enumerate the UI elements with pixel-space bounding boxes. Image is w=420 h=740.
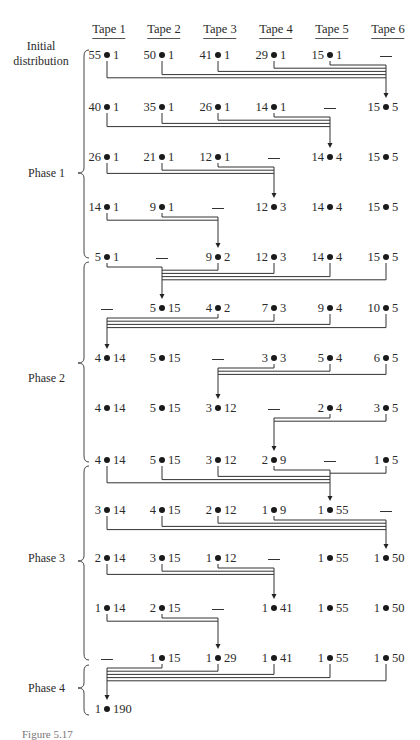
phase-label-3: Phase 3 (28, 551, 65, 566)
run-count: 15 (368, 250, 381, 264)
run-count: 2 (318, 401, 324, 415)
run-length: 4 (336, 401, 342, 415)
arrow-down-icon (216, 644, 221, 649)
run-count: 2 (150, 601, 156, 615)
bullet-icon (383, 655, 389, 661)
run-length: 1 (224, 150, 230, 164)
bullet-icon (159, 52, 165, 58)
run-length: 5 (392, 301, 398, 315)
bullet-icon (271, 204, 277, 210)
run-length: 4 (336, 250, 342, 264)
run-length: 4 (336, 150, 342, 164)
bullet-icon (104, 154, 110, 160)
bullet-icon (159, 355, 165, 361)
run-count: 41 (200, 48, 213, 62)
bullet-icon (327, 655, 333, 661)
run-length: 4 (336, 301, 342, 315)
bullet-icon (104, 254, 110, 260)
bullet-icon (104, 405, 110, 411)
run-length: 15 (168, 351, 181, 365)
bullet-icon (215, 254, 221, 260)
brace-phase-4 (78, 665, 89, 715)
bullet-icon (383, 355, 389, 361)
empty-tape-dash (212, 359, 224, 360)
run-length: 3 (280, 250, 286, 264)
empty-tape-dash (101, 309, 113, 310)
tape-header-4: Tape 4 (259, 22, 292, 39)
bullet-icon (215, 305, 221, 311)
run-count: 3 (150, 551, 156, 565)
bullet-icon (159, 655, 165, 661)
bullet-icon (215, 52, 221, 58)
run-count: 21 (144, 150, 157, 164)
bullet-icon (159, 154, 165, 160)
run-count: 5 (150, 453, 156, 467)
run-length: 5 (392, 150, 398, 164)
run-count: 3 (95, 503, 101, 517)
bullet-icon (159, 457, 165, 463)
bullet-icon (383, 154, 389, 160)
run-length: 2 (224, 250, 230, 264)
bullet-icon (327, 405, 333, 411)
run-count: 29 (256, 48, 269, 62)
arrow-down-icon (384, 544, 389, 549)
bullet-icon (271, 305, 277, 311)
run-count: 2 (262, 453, 268, 467)
run-length: 1 (168, 100, 174, 114)
arrow-down-icon (160, 294, 165, 299)
run-count: 1 (206, 651, 212, 665)
bullet-icon (271, 104, 277, 110)
arrow-down-icon (384, 93, 389, 98)
run-count: 9 (206, 250, 212, 264)
run-length: 1 (168, 150, 174, 164)
run-count: 1 (150, 651, 156, 665)
run-count: 15 (312, 48, 325, 62)
arrow-down-icon (216, 243, 221, 248)
run-count: 4 (95, 453, 101, 467)
run-length: 14 (113, 503, 126, 517)
run-count: 12 (256, 200, 269, 214)
bullet-icon (104, 706, 110, 712)
run-length: 1 (113, 48, 119, 62)
run-length: 1 (168, 200, 174, 214)
run-length: 2 (224, 301, 230, 315)
bullet-icon (215, 457, 221, 463)
run-count: 1 (374, 551, 380, 565)
tape-header-5: Tape 5 (315, 22, 348, 39)
run-count: 2 (95, 551, 101, 565)
phase-label-0: Initialdistribution (8, 39, 74, 69)
bullet-icon (104, 104, 110, 110)
empty-tape-dash (380, 56, 392, 57)
run-length: 50 (392, 651, 405, 665)
run-length: 15 (168, 453, 181, 467)
run-count: 1 (95, 702, 101, 716)
run-count: 1 (206, 551, 212, 565)
run-count: 4 (95, 401, 101, 415)
run-length: 1 (280, 100, 286, 114)
bullet-icon (104, 355, 110, 361)
bullet-icon (271, 605, 277, 611)
phase-label-4: Phase 4 (28, 681, 65, 696)
bullet-icon (383, 405, 389, 411)
bullet-icon (271, 52, 277, 58)
phase-label-1: Phase 1 (28, 166, 65, 181)
bullet-icon (271, 254, 277, 260)
bullet-icon (327, 507, 333, 513)
arrow-down-icon (328, 143, 333, 148)
run-length: 15 (168, 651, 181, 665)
bullet-icon (327, 154, 333, 160)
run-count: 40 (89, 100, 102, 114)
empty-tape-dash (324, 461, 336, 462)
run-count: 14 (312, 200, 325, 214)
bullet-icon (159, 305, 165, 311)
run-count: 1 (374, 601, 380, 615)
run-count: 5 (150, 401, 156, 415)
bullet-icon (383, 555, 389, 561)
run-count: 35 (144, 100, 157, 114)
tape-header-2: Tape 2 (147, 22, 180, 39)
run-length: 5 (392, 351, 398, 365)
run-length: 5 (392, 401, 398, 415)
run-count: 1 (318, 551, 324, 565)
run-count: 14 (256, 100, 269, 114)
bullet-icon (383, 254, 389, 260)
